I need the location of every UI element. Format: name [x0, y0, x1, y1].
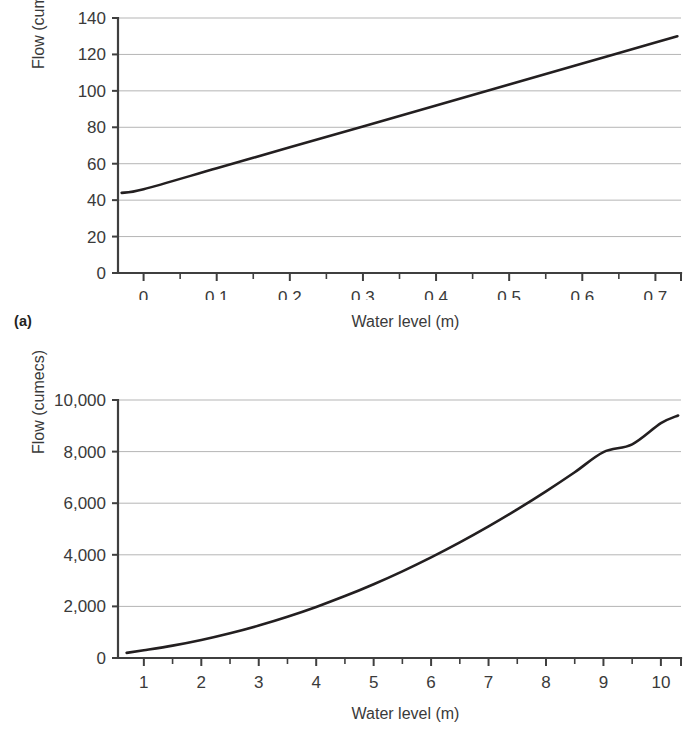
x-axis-tick-label: 8 — [541, 673, 550, 690]
x-axis-tick-label: 6 — [426, 673, 435, 690]
chart-b-canvas: 02,0004,0006,0008,00010,00012345678910 — [0, 370, 693, 690]
x-axis-tick-label: 0.6 — [570, 288, 594, 300]
data-series-line — [127, 415, 679, 652]
chart-b-y-axis-title: Flow (cumecs) — [30, 350, 48, 454]
y-axis-tick-label: 100 — [78, 82, 106, 101]
y-axis-tick-label: 4,000 — [63, 546, 106, 565]
chart-b-x-axis-title: Water level (m) — [0, 705, 693, 723]
y-axis-tick-label: 80 — [87, 118, 106, 137]
chart-a-x-axis-title: Water level (m) — [0, 313, 693, 331]
y-axis-tick-label: 140 — [78, 9, 106, 28]
x-axis-tick-label: 3 — [254, 673, 263, 690]
x-axis-tick-label: 2 — [197, 673, 206, 690]
chart-a-canvas: 02040608010012014000.10.20.30.40.50.60.7 — [0, 0, 693, 300]
x-axis-tick-label: 9 — [599, 673, 608, 690]
y-axis-tick-label: 120 — [78, 45, 106, 64]
y-axis-tick-label: 20 — [87, 228, 106, 247]
data-series-line — [122, 36, 678, 193]
chart-a-y-axis-title: Flow (cumecs) — [30, 0, 48, 69]
y-axis-tick-label: 8,000 — [63, 443, 106, 462]
y-axis-tick-label: 6,000 — [63, 494, 106, 513]
x-axis-tick-label: 4 — [311, 673, 320, 690]
x-axis-tick-label: 5 — [369, 673, 378, 690]
x-axis-tick-label: 0.1 — [205, 288, 229, 300]
x-axis-tick-label: 1 — [139, 673, 148, 690]
y-axis-tick-label: 0 — [97, 264, 106, 283]
y-axis-tick-label: 10,000 — [54, 391, 106, 410]
x-axis-tick-label: 10 — [651, 673, 670, 690]
x-axis-tick-label: 0.7 — [644, 288, 668, 300]
x-axis-tick-label: 0.4 — [424, 288, 448, 300]
y-axis-tick-label: 60 — [87, 155, 106, 174]
y-axis-tick-label: 0 — [97, 649, 106, 668]
x-axis-tick-label: 0.3 — [351, 288, 375, 300]
chart-panel-a: 02040608010012014000.10.20.30.40.50.60.7… — [0, 0, 693, 352]
chart-panel-b: 02,0004,0006,0008,00010,00012345678910 F… — [0, 370, 693, 739]
y-axis-tick-label: 2,000 — [63, 597, 106, 616]
x-axis-tick-label: 0 — [139, 288, 148, 300]
x-axis-tick-label: 0.5 — [497, 288, 521, 300]
x-axis-tick-label: 7 — [484, 673, 493, 690]
x-axis-tick-label: 0.2 — [278, 288, 302, 300]
chart-a-panel-caption: (a) — [14, 313, 32, 329]
y-axis-tick-label: 40 — [87, 191, 106, 210]
